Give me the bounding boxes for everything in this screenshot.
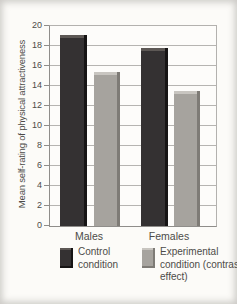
bar-corner-bevel — [165, 48, 168, 51]
bar-corner-bevel — [117, 72, 120, 75]
y-tick-0 — [44, 225, 49, 226]
y-tick-12 — [44, 105, 49, 106]
y-tick-label-12: 12 — [20, 100, 42, 111]
bar-right-bevel — [117, 72, 120, 226]
bar-males-experimental — [94, 72, 120, 226]
y-tick-2 — [44, 205, 49, 206]
y-tick-18 — [44, 45, 49, 46]
legend-swatch-top-bevel — [60, 248, 73, 250]
bar-right-bevel — [84, 35, 87, 226]
bar-top-bevel — [60, 35, 87, 38]
plot-area: 02468101214161820 — [49, 25, 217, 227]
y-tick-10 — [44, 125, 49, 126]
bar-corner-bevel — [84, 35, 87, 38]
legend-swatch-top-bevel — [142, 248, 155, 250]
y-tick-label-2: 2 — [20, 200, 42, 211]
y-tick-label-6: 6 — [20, 160, 42, 171]
y-tick-label-16: 16 — [20, 60, 42, 71]
y-tick-20 — [44, 25, 49, 26]
y-tick-label-8: 8 — [20, 140, 42, 151]
legend-swatch-experimental — [142, 248, 155, 268]
bar-chart: Mean self-rating of physical attractiven… — [0, 0, 237, 304]
legend-swatch-control — [60, 248, 73, 268]
y-tick-8 — [44, 145, 49, 146]
y-tick-4 — [44, 185, 49, 186]
y-tick-label-14: 14 — [20, 80, 42, 91]
x-category-label-females: Females — [149, 230, 189, 242]
bar-right-bevel — [197, 91, 200, 226]
bar-corner-bevel — [197, 91, 200, 94]
y-tick-16 — [44, 65, 49, 66]
bar-right-bevel — [165, 48, 168, 226]
legend-label-experimental: Experimental condition (contrast effect) — [160, 246, 237, 284]
bar-females-control — [141, 48, 168, 226]
y-tick-label-10: 10 — [20, 120, 42, 131]
y-tick-label-18: 18 — [20, 40, 42, 51]
legend-swatch-bottom-bevel — [142, 266, 155, 268]
legend-swatch-right-bevel — [71, 248, 73, 268]
bar-females-experimental — [174, 91, 200, 226]
x-category-label-males: Males — [75, 230, 103, 242]
legend-label-control: Control condition — [78, 246, 134, 271]
y-tick-6 — [44, 165, 49, 166]
bar-top-bevel — [141, 48, 168, 51]
bar-males-control — [60, 35, 87, 226]
y-tick-14 — [44, 85, 49, 86]
y-tick-label-0: 0 — [20, 220, 42, 231]
y-tick-label-4: 4 — [20, 180, 42, 191]
scanned-page: Mean self-rating of physical attractiven… — [0, 0, 237, 304]
y-tick-label-20: 20 — [20, 20, 42, 31]
legend-swatch-bottom-bevel — [60, 266, 73, 268]
legend-swatch-right-bevel — [153, 248, 155, 268]
